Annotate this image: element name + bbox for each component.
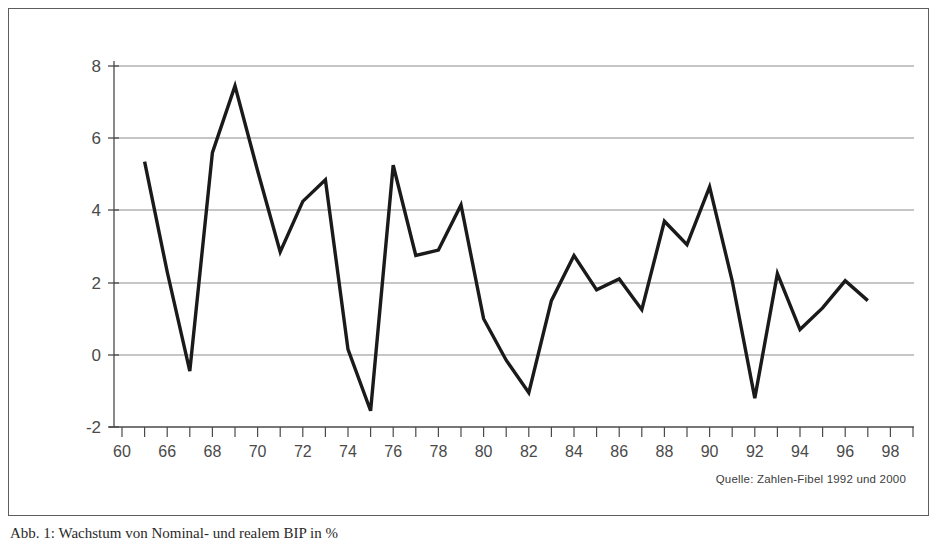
data-series-line xyxy=(145,86,868,411)
x-tick-label: 82 xyxy=(520,443,538,460)
y-tick-label: 2 xyxy=(92,274,101,293)
y-tick-label: 6 xyxy=(92,129,101,148)
y-tick-labels: -202468 xyxy=(86,57,101,437)
line-chart: -202468 60666870727476788082848688909294… xyxy=(9,9,930,517)
x-tick-label: 66 xyxy=(158,443,176,460)
source-note: Quelle: Zahlen-Fibel 1992 und 2000 xyxy=(716,473,906,485)
x-tick-label: 70 xyxy=(249,443,267,460)
x-tick-label: 90 xyxy=(701,443,719,460)
x-tick-label: 72 xyxy=(294,443,312,460)
x-tick-label: 94 xyxy=(791,443,809,460)
x-tick-label: 92 xyxy=(746,443,764,460)
x-tick-label: 74 xyxy=(339,443,357,460)
x-tick-label: 98 xyxy=(882,443,900,460)
figure-caption: Abb. 1: Wachstum von Nominal- und realem… xyxy=(10,525,338,543)
x-tick-label: 60 xyxy=(113,443,131,460)
x-tick-label: 78 xyxy=(430,443,448,460)
x-tick-label: 88 xyxy=(656,443,674,460)
x-tick-label: 76 xyxy=(384,443,402,460)
x-tick-label: 68 xyxy=(204,443,222,460)
y-tick-label: 8 xyxy=(92,57,101,76)
y-tick-label: 0 xyxy=(92,346,101,365)
page-root: -202468 60666870727476788082848688909294… xyxy=(0,0,939,543)
figure-frame: -202468 60666870727476788082848688909294… xyxy=(8,8,929,516)
y-tick-label: -2 xyxy=(86,418,101,437)
x-tick-labels: 606668707274767880828486889092949698 xyxy=(113,443,899,460)
x-tick-label: 84 xyxy=(565,443,583,460)
y-tick-label: 4 xyxy=(92,201,101,220)
x-tick-label: 80 xyxy=(475,443,493,460)
x-tick-label: 86 xyxy=(610,443,628,460)
x-tick-label: 96 xyxy=(836,443,854,460)
x-tick-marks xyxy=(122,427,913,437)
